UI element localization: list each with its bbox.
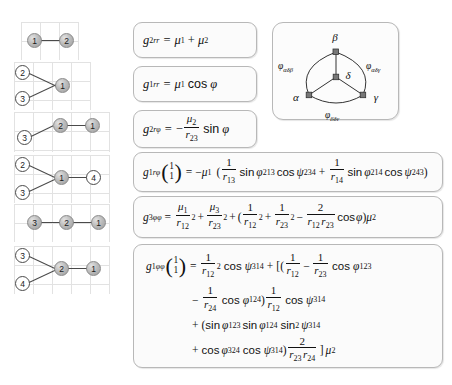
graph-node: 3	[27, 215, 42, 230]
graph-node: 2	[15, 65, 30, 80]
arc-alpha-beta	[306, 52, 336, 95]
graph-node: 4	[86, 170, 101, 185]
graph-thumbnail-5: 3 2 1	[14, 204, 110, 242]
graph-node: 2	[53, 118, 68, 133]
graph-node: 3	[15, 91, 30, 106]
graph-node: 2	[15, 157, 30, 172]
formula-2-expression: g1rr = μ1 cos φ	[143, 77, 217, 92]
graph-thumbnail-1: 1 2	[21, 22, 79, 60]
arc-beta-gamma	[336, 52, 366, 95]
graph-node: 1	[55, 78, 70, 93]
formula-1-expression: g2rr = μ1 + μ2	[143, 33, 208, 48]
graph-node: 2	[54, 261, 69, 276]
spoke-alpha-delta	[309, 77, 336, 95]
vertex-alpha-marker	[306, 92, 312, 98]
label-gamma: γ	[374, 91, 379, 103]
label-phi-alpha-delta-beta: φαδβ	[278, 61, 294, 73]
graph-node: 3	[15, 185, 30, 200]
graph-thumbnail-4: 2 3 1 4	[14, 155, 110, 203]
graph-node: 2	[59, 33, 74, 48]
column-vector: ( 11 )	[161, 162, 181, 182]
label-beta: β	[331, 31, 338, 43]
graph-node: 3	[15, 248, 30, 263]
formula-6-line-4: + cos φ324 cos ψ314) 2 r23r24 ] μ2	[146, 336, 430, 365]
vertex-beta-marker	[333, 49, 339, 55]
column-vector: ( 11 )	[166, 256, 186, 276]
label-phi-beta-delta-gamma: φβδγ	[325, 110, 340, 121]
label-alpha: α	[293, 91, 299, 103]
formula-5-expression: g3φφ = μ1 r12 2 + μ3 r23 2 + ( 1 r12 2 +…	[143, 201, 376, 233]
formula-box-3: g2rφ = − μ2 r23 sin φ	[133, 110, 257, 148]
label-phi-alpha-delta-gamma: φαδγ	[366, 61, 381, 73]
triangle-diagram-svg: β α γ δ φαδβ φαδγ φβδγ	[273, 23, 400, 121]
graph-node: 1	[86, 261, 101, 276]
formula-6-line-1: g1φφ ( 11 ) = 1 r12 2 cos ψ314 + [( 1 r1…	[146, 252, 430, 281]
graph-thumbnail-3: 3 2 1	[14, 112, 110, 152]
graph-node: 3	[17, 130, 32, 145]
graph-node: 1	[27, 33, 42, 48]
formula-box-4: g1rφ ( 11 ) = −μ1 ( 1 r13 sin φ213 cos ψ…	[133, 152, 443, 192]
vertex-gamma-marker	[360, 92, 366, 98]
graph-thumbnail-2: 2 3 1	[14, 62, 91, 110]
formula-4-expression: g1rφ ( 11 ) = −μ1 ( 1 r13 sin φ213 cos ψ…	[143, 158, 428, 187]
graph-thumbnail-6: 3 4 2 1	[14, 246, 110, 294]
vertex-delta-marker	[333, 74, 339, 80]
arc-alpha-gamma	[309, 95, 363, 103]
formula-box-1: g2rr = μ1 + μ2	[133, 22, 257, 58]
graph-node: 1	[85, 118, 100, 133]
figure-root: 1 2 2 3 1 3 2 1 2 3 1 4 3 2 1	[0, 0, 452, 385]
formula-6-line-3: + ( sin φ123 sin φ124 sin2 ψ314	[146, 319, 430, 331]
formula-box-2: g1rr = μ1 cos φ	[133, 66, 257, 102]
formula-3-expression: g2rφ = − μ2 r23 sin φ	[143, 113, 229, 145]
triangle-diagram-panel: β α γ δ φαδβ φαδγ φβδγ	[272, 22, 399, 120]
formula-box-6: g1φφ ( 11 ) = 1 r12 2 cos ψ314 + [( 1 r1…	[133, 244, 443, 368]
formula-box-5: g3φφ = μ1 r12 2 + μ3 r23 2 + ( 1 r12 2 +…	[133, 196, 443, 238]
label-delta: δ	[345, 69, 351, 81]
graph-node: 2	[59, 215, 74, 230]
graph-node: 4	[15, 276, 30, 291]
graph-node: 1	[91, 215, 106, 230]
graph-node: 1	[54, 170, 69, 185]
formula-6-line-2: − 1 r24 cos φ124) 1 r12 cos ψ314	[146, 286, 430, 315]
